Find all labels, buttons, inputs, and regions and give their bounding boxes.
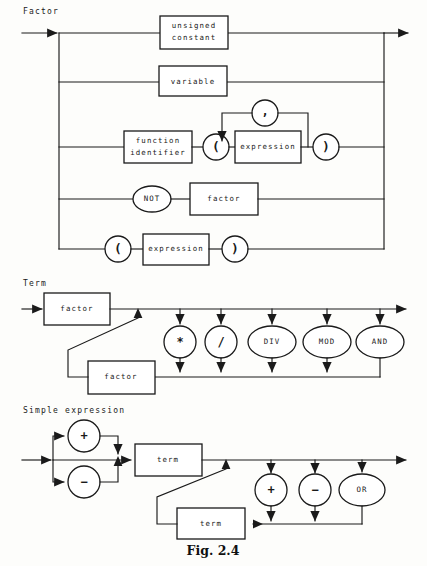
figure-caption: Fig. 2.4: [187, 543, 240, 558]
node-lparen-call-label: (: [212, 139, 220, 154]
section-simple-expression: Simple expression + − term + −: [22, 406, 406, 540]
node-rparen-call-label: ): [322, 139, 330, 154]
node-unsigned-constant-label-1: unsigned: [172, 21, 216, 30]
railroad-diagram-svg: Factor unsigned constant variable funct: [0, 0, 427, 566]
section-title-simple-expression: Simple expression: [23, 406, 125, 415]
node-op-and-label: AND: [372, 337, 389, 346]
node-op-or-label: OR: [356, 485, 367, 494]
node-op-plus-label: +: [267, 483, 274, 497]
node-op-star-label: *: [176, 335, 183, 349]
node-variable-label: variable: [171, 77, 215, 86]
section-factor: Factor unsigned constant variable funct: [22, 7, 408, 266]
node-term-bottom-label: term: [200, 519, 222, 528]
node-term-factor-top-label: factor: [60, 304, 93, 313]
node-function-identifier-label-2: identifier: [130, 148, 186, 157]
node-term-top-label: term: [157, 455, 179, 464]
node-lparen-group-label: (: [114, 241, 122, 256]
node-factor-not-label: factor: [207, 194, 240, 203]
node-op-slash-label: /: [217, 335, 224, 349]
figure-page: Factor unsigned constant variable funct: [0, 0, 427, 566]
simpleexpr-sign-minus-out: [100, 466, 118, 482]
section-term: Term factor * / DIV MOD AND: [22, 279, 406, 395]
node-sign-minus-label: −: [80, 475, 87, 489]
node-not-label: NOT: [144, 194, 161, 203]
node-unsigned-constant-label-2: constant: [172, 33, 216, 42]
node-op-mod-label: MOD: [319, 337, 336, 346]
node-expression-call-label: expression: [240, 142, 296, 151]
node-op-div-label: DIV: [264, 337, 281, 346]
simpleexpr-sign-plus-in: [53, 436, 64, 460]
simpleexpr-sign-minus-in: [53, 460, 64, 482]
node-expression-group-label: expression: [148, 244, 204, 253]
node-comma-label: ,: [261, 104, 268, 118]
section-title-factor: Factor: [23, 7, 59, 16]
node-sign-plus-label: +: [80, 429, 87, 443]
node-rparen-group-label: ): [231, 241, 239, 256]
simpleexpr-sign-plus-out: [100, 436, 118, 454]
node-op-minus-label: −: [311, 483, 318, 497]
section-title-term: Term: [23, 279, 47, 288]
node-term-factor-bottom-label: factor: [104, 372, 137, 381]
node-function-identifier-label-1: function: [136, 136, 180, 145]
